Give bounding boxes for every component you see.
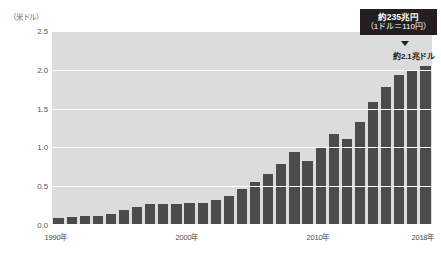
bar xyxy=(171,204,181,225)
bar xyxy=(198,203,208,226)
bar xyxy=(158,204,168,225)
bar xyxy=(420,66,430,225)
bar-chart: （米ドル） 2.52.01.51.00.50.0 約235兆円 （1ドル＝110… xyxy=(0,0,441,254)
bar xyxy=(263,174,273,225)
y-axis-tick-label: 2.5 xyxy=(4,27,48,36)
bar xyxy=(355,122,365,225)
x-axis-tick-label: 2010年 xyxy=(307,231,330,242)
x-axis-tick-label: 2018年 xyxy=(411,231,434,242)
bar xyxy=(132,207,142,225)
bar xyxy=(342,139,352,225)
gridline xyxy=(52,109,432,110)
bar-series xyxy=(52,31,432,225)
callout-secondary-text: （1ドル＝110円） xyxy=(366,22,431,31)
y-axis-tick-label: 1.0 xyxy=(4,143,48,152)
bar xyxy=(250,182,260,225)
bar xyxy=(394,75,404,225)
y-axis-unit-label: （米ドル） xyxy=(9,11,43,22)
bar xyxy=(368,102,378,225)
plot-area xyxy=(52,31,432,225)
gridline xyxy=(52,224,432,225)
y-axis-tick-label: 0.5 xyxy=(4,182,48,191)
y-axis-tick-label: 1.5 xyxy=(4,104,48,113)
gridline xyxy=(52,70,432,71)
callout-box: 約235兆円 （1ドル＝110円） xyxy=(360,9,437,35)
gridline xyxy=(52,147,432,148)
gridline xyxy=(52,186,432,187)
y-axis-tick-label: 0.0 xyxy=(4,221,48,230)
bar xyxy=(289,152,299,225)
callout-pointer-icon xyxy=(401,41,409,46)
bar xyxy=(211,200,221,225)
bar xyxy=(224,196,234,225)
bar xyxy=(119,210,129,225)
x-axis-tick-label: 2000年 xyxy=(176,231,199,242)
bar xyxy=(184,203,194,226)
callout-primary-text: 約235兆円 xyxy=(366,12,431,22)
bar xyxy=(302,161,312,225)
bar xyxy=(145,204,155,225)
value-note-label: 約2.1兆ドル xyxy=(393,50,435,61)
x-axis-tick-label: 1990年 xyxy=(45,231,68,242)
bar xyxy=(381,87,391,225)
y-axis-tick-label: 2.0 xyxy=(4,65,48,74)
bar xyxy=(276,164,286,225)
bar xyxy=(237,189,247,225)
y-axis-tick-group: 2.52.01.51.00.50.0 xyxy=(0,31,48,225)
